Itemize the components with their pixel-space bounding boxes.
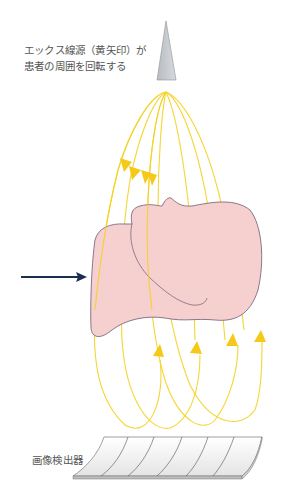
image-detector (73, 437, 262, 479)
beam-arrowheads-down (120, 158, 157, 186)
beam-arrowheads-up (153, 330, 266, 357)
xray-source-icon (157, 21, 176, 80)
ct-diagram (0, 0, 285, 503)
patient-head (91, 198, 262, 337)
direction-arrow-icon (21, 272, 87, 282)
